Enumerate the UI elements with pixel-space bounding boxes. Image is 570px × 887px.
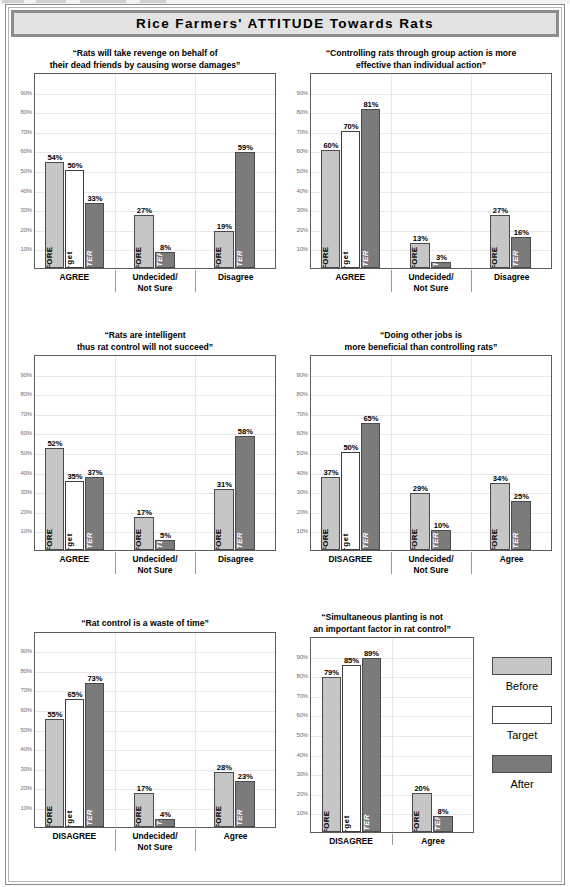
y-axis-tick: 70% (21, 411, 32, 417)
bar-label-clip: AFTER (362, 424, 379, 549)
y-axis-tick: 30% (297, 771, 308, 777)
bar-value-label: 20% (414, 784, 429, 793)
bar-before: 55%BEFORE (45, 719, 64, 827)
x-axis-category-label: DISAGREE (34, 828, 115, 853)
bar-value-label: 16% (514, 228, 529, 237)
y-axis-tick: 50% (297, 732, 308, 738)
bar-series-label: AFTER (236, 532, 245, 549)
x-label-separator (391, 552, 392, 574)
bar-after: 89%AFTER (362, 658, 381, 832)
y-axis-tick: 30% (21, 766, 32, 772)
bar-before: 13%BEFORE (410, 243, 430, 268)
bar-label-clip: BEFORE (413, 794, 431, 831)
plot-area-wrapper: 90%80%70%60%50%40%30%20%10%55%BEFORE65%t… (14, 632, 276, 828)
bar-label-clip: AFTER (156, 820, 174, 826)
bar-group: 60%BEFORE70%target81%AFTER (311, 74, 391, 268)
x-axis-category-label: Agree (471, 551, 552, 576)
bar-value-label: 73% (87, 674, 102, 683)
x-label-separator (195, 829, 196, 851)
page-title-banner: Rice Farmers' ATTITUDE Towards Rats (11, 10, 559, 37)
legend-swatch-after (492, 755, 552, 773)
bar-value-label: 54% (47, 153, 62, 162)
x-axis-category-line: AGREE (34, 554, 115, 565)
bar-target: 50%target (341, 452, 360, 550)
y-axis-tick: 60% (297, 148, 308, 154)
bar-before: 79%BEFORE (322, 677, 341, 832)
plot-area: 54%BEFORE50%target33%AFTER27%BEFORE8%AFT… (34, 73, 276, 269)
bar-value-label: 52% (47, 439, 62, 448)
bar-group: 29%BEFORE10%AFTER (391, 356, 471, 550)
bar-value-label: 8% (438, 807, 449, 816)
x-label-separator (195, 270, 196, 292)
bar-series-label: AFTER (236, 250, 245, 267)
y-axis-tick: 50% (21, 168, 32, 174)
plot-area: 79%BEFORE85%target89%AFTER20%BEFORE8%AFT… (310, 637, 474, 833)
chart-panel-3: “Rats are intelligentthus rat control wi… (14, 330, 276, 576)
x-axis-category-label: Undecided/Not Sure (115, 269, 196, 294)
bar-after: 8%AFTER (155, 252, 175, 268)
bar-target: 35%target (65, 481, 84, 550)
y-axis-tick: 70% (297, 693, 308, 699)
y-axis-tick: 30% (21, 489, 32, 495)
bar-group: 52%BEFORE35%target37%AFTER (35, 356, 115, 550)
bar-series-label: BEFORE (215, 529, 224, 549)
bar-series-label: target (66, 251, 75, 267)
bar-series-label: BEFORE (215, 247, 224, 267)
bar-before: 60%BEFORE (321, 150, 340, 268)
bar-after: 65%AFTER (361, 423, 380, 550)
bar-groups: 37%BEFORE50%target65%AFTER29%BEFORE10%AF… (311, 356, 551, 550)
bar-series-label: BEFORE (491, 247, 500, 267)
bar-label-clip: target (342, 132, 359, 267)
chart-title: “Doing other jobs ismore beneficial than… (290, 330, 552, 353)
y-axis-tick: 80% (297, 109, 308, 115)
bar-series-label: BEFORE (491, 529, 500, 549)
bar-label-clip: BEFORE (135, 216, 153, 267)
bar-value-label: 34% (493, 474, 508, 483)
bar-before: 28%BEFORE (214, 772, 234, 827)
bar-before: 54%BEFORE (45, 162, 64, 268)
bar-value-label: 17% (137, 784, 152, 793)
y-axis-tick: 70% (297, 411, 308, 417)
bar-before: 17%BEFORE (134, 517, 154, 550)
x-axis-category-label: Disagree (471, 269, 552, 294)
bar-series-label: BEFORE (322, 529, 331, 549)
bar-series-label: AFTER (86, 250, 95, 267)
bar-label-clip: AFTER (432, 531, 450, 549)
bar-label-clip: BEFORE (322, 478, 339, 549)
bar-series-label: AFTER (86, 532, 95, 549)
bar-value-label: 65% (67, 690, 82, 699)
y-axis-tick: 60% (297, 712, 308, 718)
bar-value-label: 33% (87, 194, 102, 203)
bar-label-clip: target (66, 171, 83, 267)
bar-label-clip: BEFORE (215, 490, 233, 549)
bar-label-clip: AFTER (434, 817, 452, 831)
bar-label-clip: AFTER (156, 253, 174, 267)
chart-panel-2: “Controlling rats through group action i… (290, 48, 552, 294)
y-axis-tick: 20% (21, 785, 32, 791)
x-label-separator (195, 552, 196, 574)
x-axis-category-line: Agree (195, 831, 276, 842)
bar-label-clip: AFTER (512, 502, 530, 549)
chart-title: “Rats will take revenge on behalf ofthei… (14, 48, 276, 71)
legend-swatch-before (492, 657, 552, 675)
x-axis-category-line: Not Sure (115, 283, 196, 294)
x-axis-category-line: Undecided/ (115, 272, 196, 283)
bar-series-label: AFTER (363, 814, 372, 831)
x-label-separator (115, 829, 116, 851)
y-axis: 90%80%70%60%50%40%30%20%10% (290, 637, 310, 833)
chart-panel-1: “Rats will take revenge on behalf ofthei… (14, 48, 276, 294)
bar-target: 70%target (341, 131, 360, 268)
y-axis: 90%80%70%60%50%40%30%20%10% (14, 632, 34, 828)
bar-after: 23%AFTER (235, 781, 255, 826)
plot-area: 55%BEFORE65%target73%AFTER17%BEFORE4%AFT… (34, 632, 276, 828)
legend-label: After (483, 773, 561, 790)
bar-target: 50%target (65, 170, 84, 268)
bar-label-clip: BEFORE (215, 773, 233, 826)
plot-area-wrapper: 90%80%70%60%50%40%30%20%10%54%BEFORE50%t… (14, 73, 276, 269)
x-label-separator (392, 834, 393, 845)
bar-series-label: AFTER (512, 532, 521, 549)
bar-value-label: 3% (436, 253, 447, 262)
y-axis-tick: 60% (21, 707, 32, 713)
chart-title-line: their dead friends by causing worse dama… (14, 60, 276, 72)
x-axis-labels: AGREEUndecided/Not SureDisagree (34, 269, 276, 294)
